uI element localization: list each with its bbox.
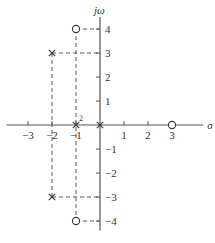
zero-marker	[72, 25, 79, 32]
jomega-axis-label: jω	[92, 4, 105, 16]
pole-multiplicity-label: 2	[79, 114, 83, 123]
x-tick-label: 3	[169, 129, 175, 141]
x-tick-label: 1	[121, 129, 127, 141]
y-tick-label: 3	[105, 47, 111, 59]
y-tick-label: 4	[105, 23, 111, 35]
zero-marker	[72, 217, 79, 224]
x-tick-label: −2	[46, 129, 58, 141]
x-tick-label: −3	[22, 129, 34, 141]
y-tick-label: 1	[105, 95, 111, 107]
sigma-axis-label: σ	[207, 119, 213, 131]
y-tick-label: −4	[105, 215, 117, 227]
pole-zero-plot: −3−2−1123 4321−1−2−3−4 σ jω 2	[0, 0, 215, 243]
y-tick-label: −3	[105, 191, 117, 203]
y-tick-label: −2	[105, 167, 117, 179]
x-tick-label: 2	[145, 129, 151, 141]
x-tick-label: −1	[70, 129, 82, 141]
zero-marker	[168, 121, 175, 128]
y-tick-label: 2	[105, 71, 111, 83]
y-tick-label: −1	[105, 143, 117, 155]
